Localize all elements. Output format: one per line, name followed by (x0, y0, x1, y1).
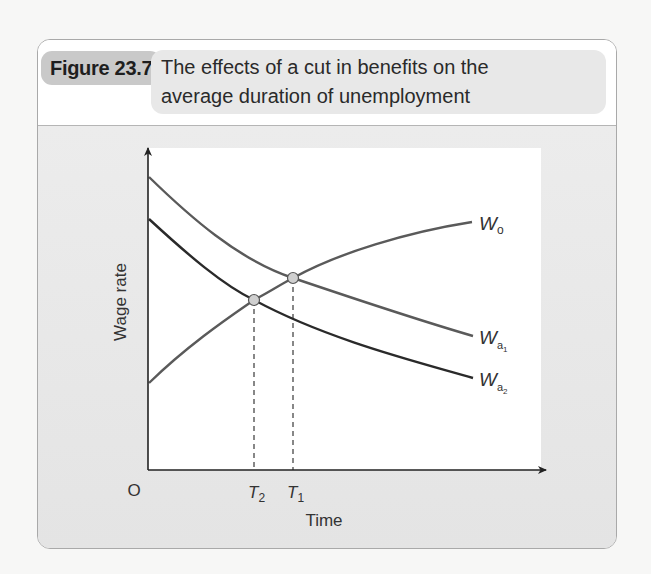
x-axis-label: Time (305, 511, 342, 530)
wage-duration-chart: Wage rate Time O T2 T1 Wo Wa1 Wa2 (38, 40, 617, 549)
intersection-t1-dot (288, 273, 299, 284)
plot-area (148, 148, 541, 470)
figure-panel: Figure 23.7 The effects of a cut in bene… (37, 39, 617, 549)
tick-t1: T1 (287, 483, 304, 505)
tick-t2: T2 (248, 483, 265, 505)
intersection-t2-dot (249, 295, 260, 306)
y-axis-label: Wage rate (111, 263, 130, 341)
origin-label: O (127, 481, 140, 500)
